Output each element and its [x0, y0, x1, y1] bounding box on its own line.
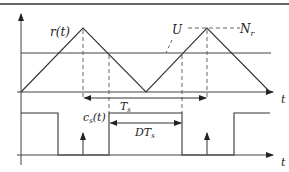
reference-label: U: [172, 23, 183, 37]
carrier-label: r(t): [50, 25, 70, 39]
signal-label: cs(t): [83, 111, 106, 125]
pwm-diagram: t r(t) U Nr Ts t DTs cs(t): [0, 0, 289, 172]
duty-label: DTs: [134, 126, 155, 140]
peak-label: Nr: [239, 22, 256, 38]
period-label: Ts: [120, 100, 131, 114]
reference-leader: [166, 40, 172, 53]
lower-axis-label: t: [281, 156, 286, 169]
upper-axis-label: t: [281, 93, 286, 106]
